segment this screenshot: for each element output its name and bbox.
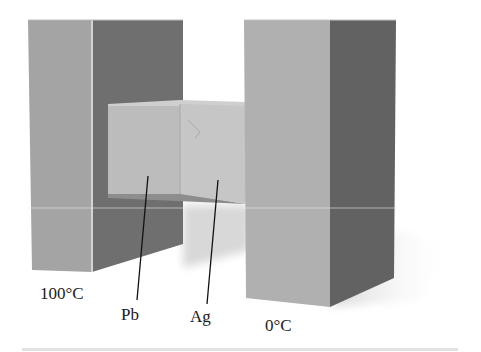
cold-block-side-face [330, 20, 396, 307]
lead-label: Pb [121, 305, 139, 325]
silver-segment [180, 104, 246, 204]
silver-label: Ag [190, 307, 211, 327]
bottom-divider [22, 348, 458, 351]
cold-temperature-label: 0°C [265, 316, 292, 336]
hot-block-front-face [28, 20, 92, 272]
cold-reservoir-block [244, 20, 396, 307]
thermal-conduction-diagram: 100°C Pb Ag 0°C [0, 0, 481, 352]
composite-bar [108, 100, 246, 204]
cold-block-front-face [244, 20, 330, 307]
hot-temperature-label: 100°C [40, 284, 84, 304]
lead-segment [108, 106, 180, 194]
